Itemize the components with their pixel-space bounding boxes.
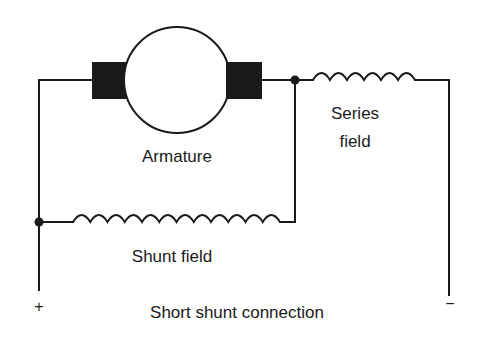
series-field-coil-icon (313, 73, 415, 80)
right-wire (415, 80, 449, 295)
junction-dot-left (35, 218, 44, 227)
positive-terminal-label: + (34, 298, 43, 315)
series-field-label-line2: field (339, 132, 370, 151)
short-shunt-circuit-diagram: Armature Series field Shunt field + − Sh… (0, 0, 481, 337)
negative-terminal-label: − (445, 295, 454, 312)
shunt-field-label: Shunt field (132, 247, 212, 266)
diagram-title: Short shunt connection (150, 303, 324, 322)
series-field-label-line1: Series (331, 104, 379, 123)
armature-label: Armature (142, 147, 212, 166)
armature-icon (124, 27, 230, 133)
shunt-field-coil-icon (73, 215, 280, 222)
left-brush (92, 62, 128, 99)
shunt-return-wire (280, 80, 295, 222)
left-wire (39, 80, 92, 290)
right-brush (226, 62, 262, 99)
